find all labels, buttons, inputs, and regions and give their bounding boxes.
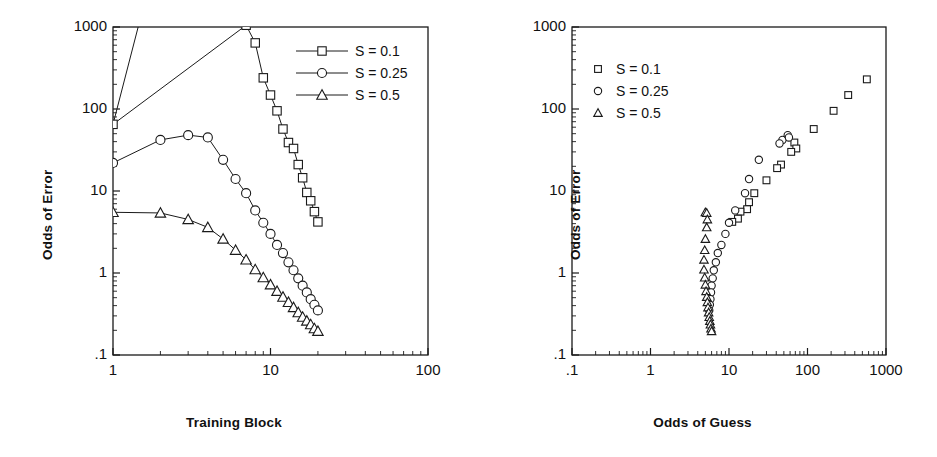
legend-circle-icon [590, 84, 606, 98]
y-tick-label: 1000 [47, 17, 107, 34]
x-tick-label: 100 [778, 361, 838, 378]
y-tick-label: .1 [47, 345, 107, 362]
legend-square-icon [590, 62, 606, 76]
legend-label: S = 0.25 [355, 65, 408, 81]
x-tick-label: .1 [542, 361, 602, 378]
legend-left: S = 0.1S = 0.25S = 0.5 [296, 40, 408, 106]
legend-label: S = 0.25 [616, 83, 669, 99]
legend-label: S = 0.5 [616, 105, 661, 121]
legend-label: S = 0.5 [355, 87, 400, 103]
y-tick-label: 100 [47, 99, 107, 116]
legend-label: S = 0.1 [355, 43, 400, 59]
y-tick-label: .1 [506, 345, 566, 362]
x-tick-label: 10 [699, 361, 759, 378]
y-tick-label: 1 [506, 263, 566, 280]
x-axis-title-left: Training Block [0, 415, 468, 430]
y-tick-label: 10 [47, 181, 107, 198]
x-axis-title-right: Odds of Guess [468, 415, 937, 430]
y-tick-label: 100 [506, 99, 566, 116]
x-tick-label: 1000 [856, 361, 916, 378]
x-tick-label: 1 [83, 361, 143, 378]
legend-triangle-icon [590, 106, 606, 120]
legend-item: S = 0.25 [588, 80, 669, 102]
y-tick-label: 1 [47, 263, 107, 280]
y-axis-title-right: Odds of Error [568, 170, 583, 260]
plot-area-right [468, 0, 937, 457]
legend-item: S = 0.5 [588, 102, 669, 124]
chart-panel-left: Training Block Odds of Error S = 0.1S = … [0, 0, 468, 457]
legend-right: S = 0.1S = 0.25S = 0.5 [588, 58, 669, 124]
y-tick-label: 10 [506, 181, 566, 198]
legend-item: S = 0.1 [588, 58, 669, 80]
legend-item: S = 0.1 [296, 40, 408, 62]
x-tick-label: 100 [398, 361, 458, 378]
chart-panel-right: Odds of Guess Odds of Error S = 0.1S = 0… [468, 0, 937, 457]
legend-item: S = 0.5 [296, 84, 408, 106]
x-tick-label: 10 [241, 361, 301, 378]
legend-triangle-icon [296, 88, 348, 102]
legend-circle-icon [296, 66, 348, 80]
x-tick-label: 1 [621, 361, 681, 378]
legend-label: S = 0.1 [616, 61, 661, 77]
y-tick-label: 1000 [506, 17, 566, 34]
legend-square-icon [296, 44, 348, 58]
legend-item: S = 0.25 [296, 62, 408, 84]
